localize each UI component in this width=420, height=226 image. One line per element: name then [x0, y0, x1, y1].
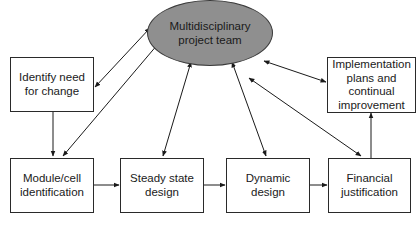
node-label: Module/cell identification — [20, 172, 84, 199]
center-node-label: Multidisciplinary project team — [169, 19, 250, 47]
node-implementation-plans: Implementation plans and continual impro… — [327, 57, 416, 113]
node-financial-justification: Financial justification — [328, 158, 411, 213]
node-label: Implementation plans and continual impro… — [332, 58, 411, 112]
edge-center-identify — [95, 28, 150, 87]
node-label: Identify need for change — [19, 71, 85, 98]
node-label: Dynamic design — [246, 172, 291, 199]
node-dynamic-design: Dynamic design — [226, 158, 310, 213]
center-node-project-team: Multidisciplinary project team — [147, 0, 273, 66]
node-label: Financial justification — [341, 172, 398, 199]
edge-center-implementation — [264, 61, 326, 82]
node-identify-need: Identify need for change — [10, 57, 94, 112]
edge-center-dynamic — [232, 62, 266, 156]
edge-center-steady — [163, 62, 191, 156]
node-label: Steady state design — [130, 172, 194, 199]
node-module-identification: Module/cell identification — [10, 158, 94, 213]
node-steady-state-design: Steady state design — [120, 158, 204, 213]
